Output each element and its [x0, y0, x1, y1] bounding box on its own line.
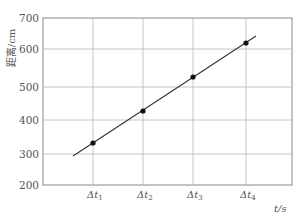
- x-tick-dt2: Δt2: [136, 189, 153, 202]
- distance-time-chart: 700 600 500 400 300 200 距离/cm Δt1 Δt2 Δt…: [0, 0, 300, 222]
- fit-line: [73, 36, 256, 156]
- data-point-dt2: [140, 108, 145, 113]
- y-axis-label: 距离/cm: [5, 28, 17, 67]
- data-point-dt3: [190, 74, 195, 79]
- y-tick-500: 500: [19, 81, 39, 93]
- y-tick-600: 600: [19, 43, 39, 55]
- data-point-dt4: [243, 40, 248, 45]
- x-axis-ticks: Δt1 Δt2 Δt3 Δt4: [86, 189, 256, 202]
- x-tick-dt4: Δt4: [239, 189, 256, 202]
- x-tick-dt3: Δt3: [186, 189, 203, 202]
- y-axis-ticks: 700 600 500 400 300 200: [19, 12, 39, 191]
- y-tick-400: 400: [19, 114, 39, 126]
- y-tick-200: 200: [19, 179, 39, 191]
- plot-frame: [43, 18, 292, 185]
- data-point-dt1: [90, 140, 95, 145]
- y-tick-700: 700: [19, 12, 39, 24]
- x-tick-dt1: Δt1: [86, 189, 103, 202]
- horizontal-gridlines: [43, 49, 292, 154]
- vertical-gridlines: [93, 18, 246, 185]
- x-axis-label: t/s: [274, 203, 287, 214]
- y-tick-300: 300: [19, 148, 39, 160]
